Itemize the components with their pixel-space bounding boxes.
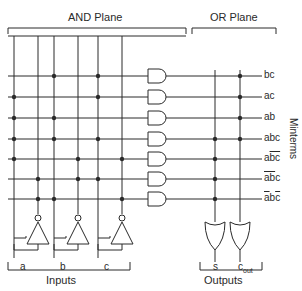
inverter-feed-a — [14, 236, 26, 238]
or-plane — [205, 70, 250, 262]
minterm-label-3: abc — [264, 133, 280, 143]
and-gate-1 — [148, 90, 166, 104]
and-gate-0 — [148, 69, 166, 83]
pla-schematic — [0, 0, 302, 291]
or-gate-s — [205, 222, 225, 250]
and-gate-4 — [148, 152, 166, 166]
inverters — [14, 215, 133, 250]
input-lines — [14, 36, 122, 258]
minterm-label-6: abc — [264, 193, 280, 203]
inverter-feed-b — [54, 236, 66, 238]
and-plane-label: AND Plane — [68, 12, 122, 23]
and-gate-3 — [148, 132, 166, 146]
connection-dot — [120, 157, 124, 161]
minterm-label-4: abc — [264, 153, 280, 163]
connection-dot — [52, 116, 56, 120]
inverter-input-a — [14, 244, 38, 250]
connection-dot — [52, 137, 56, 141]
connection-dot — [36, 197, 40, 201]
connection-dot — [76, 157, 80, 161]
plane-brackets — [8, 28, 276, 36]
inputs-label: Inputs — [46, 275, 76, 286]
or-plane-bracket — [192, 28, 276, 34]
connection-dots — [12, 74, 242, 201]
input-pin-c: c — [104, 262, 109, 272]
and-gate-5 — [148, 172, 166, 186]
pla-diagram: AND Plane OR Plane Minterms bcacababcabc… — [0, 0, 302, 291]
connection-dot — [12, 95, 16, 99]
connection-dot — [120, 197, 124, 201]
inverter-c-bubble — [119, 215, 125, 221]
inverter-input-c — [98, 244, 122, 250]
input-pin-a: a — [20, 262, 26, 272]
minterm-label-2: ab — [264, 112, 275, 122]
group-brackets — [8, 262, 262, 270]
and-gate-6 — [148, 192, 166, 206]
connection-dot — [12, 157, 16, 161]
connection-dot — [52, 197, 56, 201]
minterms-label: Minterms — [288, 118, 298, 159]
connection-dot — [76, 177, 80, 181]
inverter-input-b — [54, 244, 78, 250]
inverter-b-bubble — [75, 215, 81, 221]
or-plane-label: OR Plane — [210, 12, 258, 23]
connection-dot — [36, 177, 40, 181]
and-gates — [8, 69, 262, 206]
connection-dot — [96, 177, 100, 181]
and-gate-2 — [148, 111, 166, 125]
minterm-label-5: abc — [264, 173, 280, 183]
inputs-bracket — [8, 262, 130, 270]
inverter-a-bubble — [35, 215, 41, 221]
output-pin-s: s — [213, 262, 218, 272]
connection-dot — [96, 95, 100, 99]
connection-dot — [52, 74, 56, 78]
minterm-label-1: ac — [264, 91, 275, 101]
connection-dot — [96, 137, 100, 141]
or-gate-cout — [230, 222, 250, 250]
inverter-a-triangle — [27, 222, 49, 244]
connection-dot — [96, 74, 100, 78]
input-pin-b: b — [60, 262, 66, 272]
inverter-c-triangle — [111, 222, 133, 244]
inverter-b-triangle — [67, 222, 89, 244]
and-plane-bracket — [8, 28, 186, 34]
connection-dot — [12, 116, 16, 120]
minterm-label-0: bc — [264, 70, 275, 80]
output-pin-cout: cout — [238, 262, 253, 274]
connection-dot — [12, 137, 16, 141]
inverter-feed-c — [98, 236, 110, 238]
outputs-label: Outputs — [204, 275, 243, 286]
